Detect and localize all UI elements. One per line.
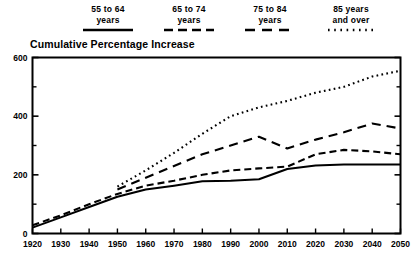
y-axis-label-0: 0 <box>23 229 28 239</box>
x-axis-label-2010: 2010 <box>278 239 297 249</box>
x-axis-label-2000: 2000 <box>250 239 269 249</box>
x-axis-label-2040: 2040 <box>363 239 382 249</box>
x-axis-label-2030: 2030 <box>334 239 353 249</box>
series-line-65-to-74-years <box>33 150 401 225</box>
series-line-55-to-64-years <box>33 165 401 228</box>
x-axis-label-2020: 2020 <box>306 239 325 249</box>
y-axis-label-200: 200 <box>13 170 27 180</box>
x-axis-label-2050: 2050 <box>391 239 410 249</box>
chart-figure: 55 to 64 years 65 to 74 years 75 to 84 y… <box>0 0 411 265</box>
y-axis-label-600: 600 <box>13 53 27 63</box>
chart-plot: 0200400600192019301940195019601970198019… <box>0 0 411 265</box>
x-axis-label-1980: 1980 <box>193 239 212 249</box>
x-axis-label-1950: 1950 <box>108 239 127 249</box>
x-axis-label-1990: 1990 <box>221 239 240 249</box>
y-axis-label-400: 400 <box>13 111 27 121</box>
x-axis-label-1960: 1960 <box>136 239 155 249</box>
x-axis-label-1940: 1940 <box>80 239 99 249</box>
x-axis-label-1920: 1920 <box>23 239 42 249</box>
x-axis-label-1970: 1970 <box>165 239 184 249</box>
x-axis-label-1930: 1930 <box>51 239 70 249</box>
